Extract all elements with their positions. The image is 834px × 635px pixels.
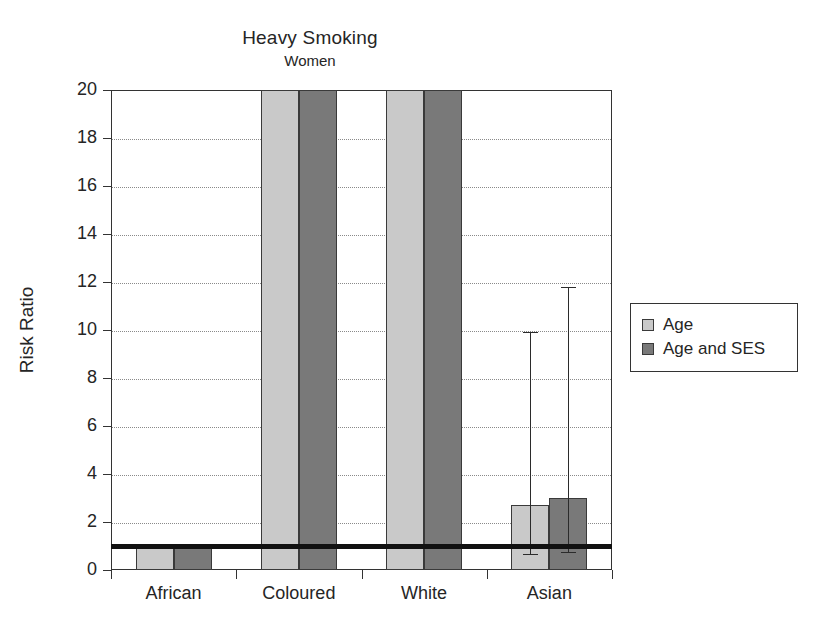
- y-tick-mark: [103, 234, 111, 235]
- y-tick-label: 12: [55, 271, 97, 292]
- legend-item-age: Age: [642, 313, 787, 337]
- y-axis-label: Risk Ratio: [16, 90, 40, 570]
- x-tick-mark: [612, 570, 613, 579]
- chart-legend: AgeAge and SES: [630, 303, 798, 372]
- y-tick-label: 20: [55, 79, 97, 100]
- errorbar-cap-upper: [561, 287, 576, 288]
- errorbar-line: [568, 287, 569, 552]
- y-tick-label: 8: [55, 367, 97, 388]
- y-tick-mark: [103, 474, 111, 475]
- y-tick-mark: [103, 282, 111, 283]
- y-tick-label: 14: [55, 223, 97, 244]
- x-tick-mark: [487, 570, 488, 579]
- legend-label: Age and SES: [663, 339, 765, 359]
- reference-line-at-one: [111, 544, 612, 549]
- legend-item-age-and-ses: Age and SES: [642, 337, 787, 361]
- x-tick-mark: [111, 570, 112, 579]
- y-tick-label: 2: [55, 511, 97, 532]
- x-tick-label-asian: Asian: [486, 583, 612, 604]
- bars-layer: [111, 90, 612, 570]
- bar-white-age-and-ses: [424, 90, 462, 570]
- chart-title: Heavy Smoking: [0, 27, 620, 49]
- legend-label: Age: [663, 315, 693, 335]
- x-tick-label-white: White: [361, 583, 487, 604]
- x-tick-mark: [362, 570, 363, 579]
- y-tick-label: 10: [55, 319, 97, 340]
- errorbar-line: [530, 332, 531, 554]
- y-tick-label: 6: [55, 415, 97, 436]
- x-tick-label-coloured: Coloured: [236, 583, 362, 604]
- x-tick-mark: [236, 570, 237, 579]
- y-tick-mark: [103, 522, 111, 523]
- bar-white-age: [386, 90, 424, 570]
- bar-coloured-age-and-ses: [299, 90, 337, 570]
- errorbar-cap-upper: [523, 332, 538, 333]
- errorbar-cap-lower: [523, 554, 538, 555]
- y-tick-label: 18: [55, 127, 97, 148]
- y-tick-label: 0: [55, 559, 97, 580]
- legend-swatch-icon: [642, 319, 654, 331]
- y-tick-mark: [103, 186, 111, 187]
- bar-coloured-age: [261, 90, 299, 570]
- bar-african-age: [136, 546, 174, 570]
- chart-subtitle: Women: [0, 52, 620, 69]
- x-tick-label-african: African: [111, 583, 237, 604]
- y-tick-mark: [103, 378, 111, 379]
- y-tick-mark: [103, 570, 111, 571]
- y-tick-mark: [103, 138, 111, 139]
- bar-african-age-and-ses: [174, 546, 212, 570]
- legend-swatch-icon: [642, 343, 654, 355]
- y-tick-mark: [103, 330, 111, 331]
- y-tick-mark: [103, 90, 111, 91]
- y-tick-label: 16: [55, 175, 97, 196]
- errorbar-cap-lower: [561, 552, 576, 553]
- y-tick-label: 4: [55, 463, 97, 484]
- y-tick-mark: [103, 426, 111, 427]
